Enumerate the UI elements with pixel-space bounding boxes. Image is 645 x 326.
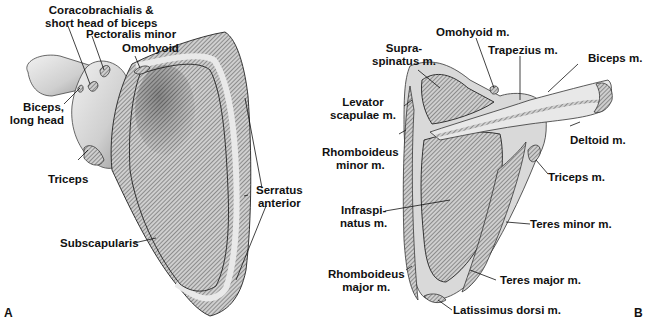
label-coracobrachialis: Coracobrachialis & short head of biceps [45,4,157,29]
label-serratus-anterior: Serratus anterior [256,184,303,209]
label-line: Coracobrachialis & [45,4,157,17]
label-pectoralis-minor: Pectoralis minor [86,28,176,41]
label-rhomboideus-minor: Rhomboideus minor m. [322,146,399,171]
label-triceps-a: Triceps [48,173,88,186]
label-deltoid: Deltoid m. [570,134,626,147]
label-triceps-b: Triceps m. [548,171,605,184]
label-line: Serratus [256,184,303,197]
label-omohyoid-a: Omohyoid [122,42,179,55]
label-omohyoid-b: Omohyoid m. [436,26,509,39]
label-supraspinatus: Supra- spinatus m. [372,42,436,67]
label-line: minor m. [322,159,399,172]
label-trapezius: Trapezius m. [488,44,558,57]
label-latissimus-dorsi: Latissimus dorsi m. [453,304,561,317]
label-teres-major: Teres major m. [500,274,581,287]
label-infraspinatus: Infraspi- natus m. [340,204,387,229]
label-teres-minor: Teres minor m. [530,218,612,231]
label-line: Levator [330,96,396,109]
label-subscapularis: Subscapularis [60,237,139,250]
label-line: natus m. [340,217,387,230]
label-biceps-long-head: Biceps, long head [8,101,64,126]
panel-letter-b: B [634,306,643,320]
label-levator-scapulae: Levator scapulae m. [330,96,396,121]
label-line: Rhomboideus [328,268,405,281]
label-line: Biceps, [8,101,64,114]
label-line: Rhomboideus [322,146,399,159]
label-line: major m. [328,281,405,294]
panel-letter-a: A [4,306,13,320]
label-line: spinatus m. [372,55,436,68]
label-biceps-b: Biceps m. [588,52,642,65]
label-line: Supra- [372,42,436,55]
label-line: scapulae m. [330,109,396,122]
label-rhomboideus-major: Rhomboideus major m. [328,268,405,293]
label-line: Infraspi- [340,204,387,217]
label-line: anterior [256,197,303,210]
scapula-muscle-attachments-figure: Coracobrachialis & short head of biceps … [0,0,645,326]
label-line: long head [8,114,64,127]
